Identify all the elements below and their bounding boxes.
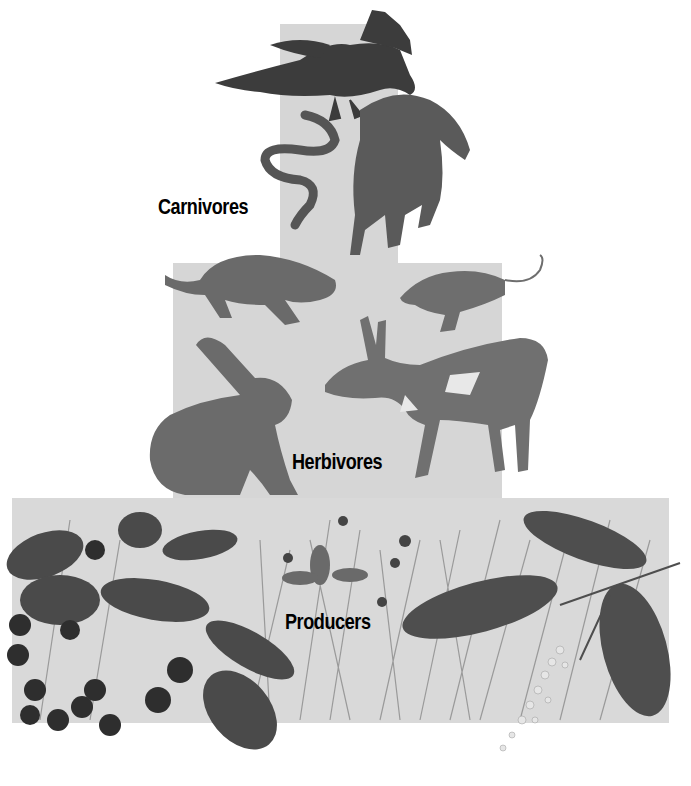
jackrabbit-illustration <box>150 338 298 496</box>
tree-branch-illustration <box>396 499 683 751</box>
strawberry-illustration <box>282 516 411 607</box>
berry-shrub-illustration <box>0 512 302 764</box>
label-producers: Producers <box>285 609 371 635</box>
label-carnivores: Carnivores <box>158 194 248 220</box>
coyote-illustration <box>350 94 470 255</box>
ground-squirrel-illustration <box>165 255 336 325</box>
snake-illustration <box>265 115 335 225</box>
label-herbivores: Herbivores <box>292 449 382 475</box>
illustrations <box>0 0 691 786</box>
mouse-illustration <box>400 255 543 332</box>
